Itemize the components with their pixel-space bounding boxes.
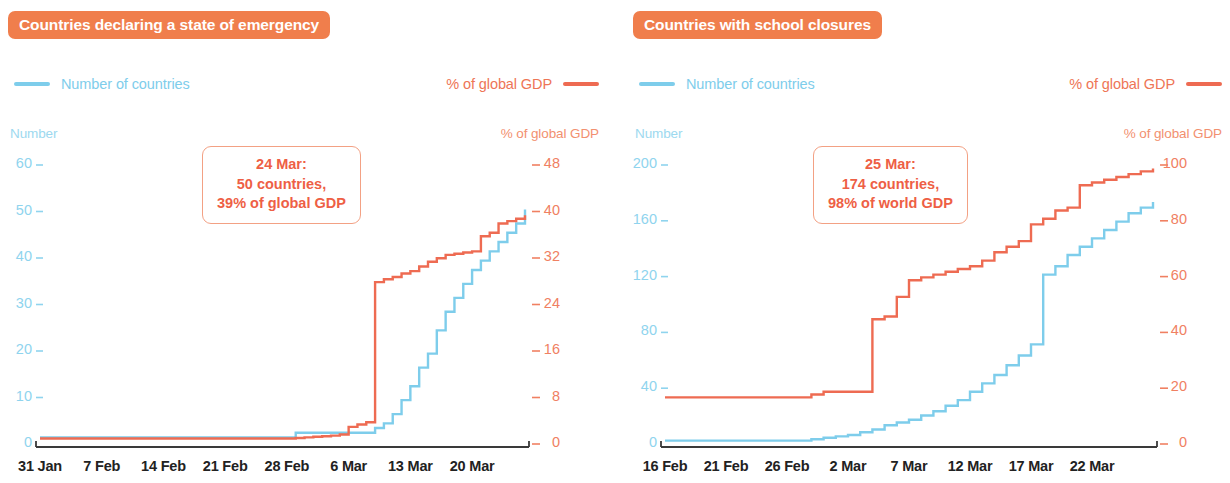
x-tick-label: 7 Feb bbox=[83, 458, 120, 474]
x-tick-label: 7 Mar bbox=[891, 458, 928, 474]
callout-line-3: 98% of world GDP bbox=[828, 194, 953, 214]
y-tick-label-left: 0 bbox=[24, 434, 32, 450]
x-tick-label: 14 Feb bbox=[141, 458, 186, 474]
callout-line-3: 39% of global GDP bbox=[217, 194, 346, 214]
y-tick-label-left: 30 bbox=[16, 295, 32, 311]
x-tick-label: 20 Mar bbox=[450, 458, 495, 474]
y-tick-label-left: 200 bbox=[633, 155, 657, 171]
y-tick-label-left: 80 bbox=[641, 322, 657, 338]
y-tick-label-left: 40 bbox=[641, 378, 657, 394]
y-tick-label-right: 100 bbox=[1163, 155, 1187, 171]
y-tick-label-left: 0 bbox=[649, 434, 657, 450]
y-tick-label-left: 160 bbox=[633, 211, 657, 227]
y-tick-label-right: 8 bbox=[552, 388, 560, 404]
y-tick-label-right: 80 bbox=[1171, 211, 1187, 227]
callout-line-2: 50 countries, bbox=[217, 175, 346, 195]
panel-school-closures: Countries with school closures Number of… bbox=[615, 0, 1230, 483]
y-tick-label-right: 60 bbox=[1171, 267, 1187, 283]
y-tick-label-right: 24 bbox=[544, 295, 560, 311]
y-tick-label-left: 10 bbox=[16, 388, 32, 404]
y-tick-label-right: 16 bbox=[544, 341, 560, 357]
plot-area-emergency: 010203040506008162432404831 Jan7 Feb14 F… bbox=[0, 0, 615, 483]
series-line-countries bbox=[665, 202, 1153, 441]
x-tick-label: 16 Feb bbox=[643, 458, 688, 474]
x-tick-label: 12 Mar bbox=[948, 458, 993, 474]
callout-line-2: 174 countries, bbox=[828, 175, 953, 195]
y-tick-label-right: 40 bbox=[544, 202, 560, 218]
x-tick-label: 6 Mar bbox=[330, 458, 367, 474]
x-tick-label: 26 Feb bbox=[765, 458, 810, 474]
y-tick-label-left: 120 bbox=[633, 267, 657, 283]
annotation-callout: 24 Mar: 50 countries, 39% of global GDP bbox=[202, 146, 361, 224]
panel-state-of-emergency: Countries declaring a state of emergency… bbox=[0, 0, 615, 483]
y-tick-label-left: 60 bbox=[16, 155, 32, 171]
y-tick-label-right: 0 bbox=[552, 434, 560, 450]
y-tick-label-right: 20 bbox=[1171, 378, 1187, 394]
chart-board: Countries declaring a state of emergency… bbox=[0, 0, 1230, 483]
y-tick-label-right: 0 bbox=[1179, 434, 1187, 450]
plot-area-school: 0408012016020002040608010016 Feb21 Feb26… bbox=[615, 0, 1230, 483]
x-tick-label: 28 Feb bbox=[265, 458, 310, 474]
x-tick-label: 21 Feb bbox=[704, 458, 749, 474]
x-tick-label: 21 Feb bbox=[203, 458, 248, 474]
y-tick-label-right: 48 bbox=[544, 155, 560, 171]
y-tick-label-left: 50 bbox=[16, 202, 32, 218]
series-line-gdp bbox=[40, 215, 525, 438]
y-tick-label-left: 20 bbox=[16, 341, 32, 357]
y-tick-label-right: 32 bbox=[544, 248, 560, 264]
x-tick-label: 22 Mar bbox=[1070, 458, 1115, 474]
y-tick-label-left: 40 bbox=[16, 248, 32, 264]
y-tick-label-right: 40 bbox=[1171, 322, 1187, 338]
callout-line-1: 25 Mar: bbox=[828, 155, 953, 175]
callout-line-1: 24 Mar: bbox=[217, 155, 346, 175]
x-tick-label: 2 Mar bbox=[830, 458, 867, 474]
series-line-countries bbox=[40, 210, 525, 438]
x-tick-label: 31 Jan bbox=[18, 458, 62, 474]
x-tick-label: 13 Mar bbox=[388, 458, 433, 474]
x-tick-label: 17 Mar bbox=[1009, 458, 1054, 474]
annotation-callout: 25 Mar: 174 countries, 98% of world GDP bbox=[813, 146, 968, 224]
